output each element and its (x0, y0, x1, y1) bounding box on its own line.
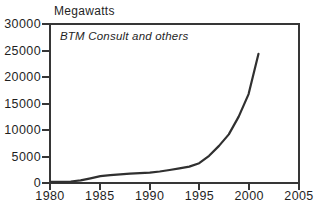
x-tick-label: 2005 (277, 189, 320, 203)
y-tick-label: 5000 (0, 150, 41, 164)
plot-area: BTM Consult and others (49, 23, 300, 184)
y-tick-label: 30000 (0, 17, 41, 31)
y-tick-mark (42, 23, 49, 25)
y-tick-label: 20000 (0, 70, 41, 84)
y-tick-mark (42, 103, 49, 105)
x-tick-label: 1990 (128, 189, 172, 203)
y-tick-mark (42, 50, 49, 52)
y-tick-label: 15000 (0, 97, 41, 111)
y-tick-mark (42, 76, 49, 78)
y-tick-mark (42, 182, 49, 184)
y-tick-label: 10000 (0, 123, 41, 137)
x-tick-label: 1985 (78, 189, 122, 203)
line-series-svg (51, 25, 298, 182)
y-tick-label: 25000 (0, 44, 41, 58)
wind-capacity-chart: Megawatts BTM Consult and others 0500010… (0, 0, 320, 212)
y-tick-label: 0 (0, 176, 41, 190)
y-tick-mark (42, 156, 49, 158)
capacity-line-series (51, 54, 259, 182)
x-tick-label: 2000 (227, 189, 271, 203)
x-tick-label: 1995 (177, 189, 221, 203)
y-tick-mark (42, 129, 49, 131)
y-axis-unit-label: Megawatts (54, 4, 115, 18)
x-tick-label: 1980 (28, 189, 72, 203)
